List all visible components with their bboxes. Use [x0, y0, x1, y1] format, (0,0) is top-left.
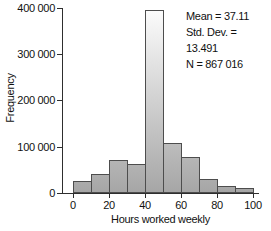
x-tick [253, 194, 254, 198]
histogram-bar [217, 186, 236, 193]
x-tick [109, 194, 110, 198]
stats-annotation: Mean = 37.11 Std. Dev. = 13.491 N = 867 … [186, 8, 271, 72]
x-tick-label: 60 [164, 199, 198, 211]
y-tick [57, 147, 62, 148]
n-stat: N = 867 016 [186, 56, 271, 72]
x-tick-label: 80 [200, 199, 234, 211]
x-tick [145, 194, 146, 198]
histogram-bar [73, 181, 92, 193]
x-tick [181, 194, 182, 198]
y-tick-label: 400 000 [0, 2, 55, 14]
y-tick-label: 300 000 [0, 48, 55, 60]
histogram-bar [127, 164, 146, 193]
y-tick [57, 193, 62, 194]
x-tick [73, 194, 74, 198]
histogram-bar [163, 143, 182, 193]
y-tick-label: 100 000 [0, 141, 55, 153]
y-tick-label: 200 000 [0, 94, 55, 106]
histogram-bar [109, 160, 128, 193]
x-tick-label: 40 [128, 199, 162, 211]
histogram-bar [91, 174, 110, 193]
x-tick-label: 0 [56, 199, 90, 211]
x-axis-line [62, 193, 259, 194]
histogram-bar [199, 179, 218, 193]
histogram-bar [181, 157, 200, 193]
histogram-bar [145, 10, 164, 193]
stddev-stat: Std. Dev. = 13.491 [186, 24, 271, 56]
mean-stat: Mean = 37.11 [186, 8, 271, 24]
x-tick-label: 100 [236, 199, 270, 211]
x-tick-label: 20 [92, 199, 126, 211]
x-tick [217, 194, 218, 198]
y-tick [57, 8, 62, 9]
y-axis-line [62, 8, 63, 194]
y-tick-label: 0 [0, 187, 55, 199]
histogram-chart: Frequency 020406080100 0100 000200 00030… [0, 0, 271, 231]
y-tick [57, 100, 62, 101]
x-axis-title: Hours worked weekly [62, 213, 259, 225]
y-tick [57, 54, 62, 55]
